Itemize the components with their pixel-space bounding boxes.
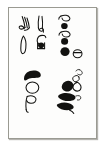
hook-tail-glyph	[76, 96, 81, 101]
comma-curl-glyph	[59, 15, 70, 21]
p-hook-glyph	[26, 96, 36, 113]
image-canvas	[0, 0, 108, 147]
teardrop-glyph	[73, 82, 81, 91]
ring-with-dot-glyph	[37, 35, 46, 48]
filled-blob-glyph	[58, 93, 75, 101]
glyph-cluster-bottom-left	[21, 70, 51, 118]
open-circle-glyph	[72, 74, 81, 83]
curled-hook-glyph	[38, 16, 43, 32]
glyph-cluster-bottom-right	[55, 68, 89, 120]
glyph-card	[8, 7, 97, 139]
filled-dot-glyph	[60, 47, 69, 56]
glyph-cluster-top-left-svg	[18, 14, 50, 62]
comma-curl-glyph	[76, 70, 82, 75]
glyph-cluster-top-right	[56, 13, 90, 61]
wedge-tail-glyph	[57, 103, 74, 114]
glyph-cluster-bottom-left-svg	[21, 70, 51, 118]
glyph-area	[9, 8, 96, 138]
filled-dot-glyph	[38, 43, 44, 49]
filled-dot-glyph	[61, 38, 68, 45]
leaf-oval-glyph	[21, 36, 26, 54]
filled-dot-glyph	[61, 23, 68, 29]
glyph-cluster-bottom-right-svg	[55, 68, 89, 120]
glyph-cluster-top-left	[18, 14, 50, 62]
comma-curl-glyph	[59, 31, 70, 37]
curled-hook-glyph	[19, 17, 29, 31]
oval-outline-glyph	[26, 82, 39, 93]
crescent-wedge-glyph	[24, 71, 41, 81]
glyph-cluster-top-right-svg	[56, 13, 90, 61]
open-circle-glyph	[73, 50, 82, 58]
